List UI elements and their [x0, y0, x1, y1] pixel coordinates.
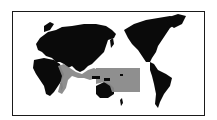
- scandinavia: [44, 22, 54, 32]
- island-indonesia: [92, 76, 100, 79]
- island-pacific: [120, 74, 123, 76]
- south-america: [150, 62, 172, 108]
- new-zealand: [120, 98, 123, 106]
- island-new-guinea: [104, 78, 110, 81]
- japan: [110, 38, 114, 48]
- world-map: [0, 0, 217, 120]
- land-masses: [33, 14, 186, 108]
